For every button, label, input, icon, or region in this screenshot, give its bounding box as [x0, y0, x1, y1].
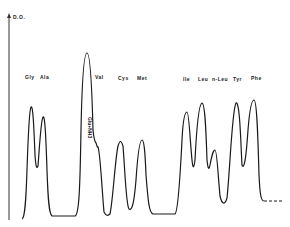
peak-label-gly: Gly: [25, 74, 35, 80]
peak-label-leu: Leu: [198, 76, 208, 82]
peak-label-ile: Ile: [183, 76, 190, 82]
peak-label-val: Val: [95, 74, 104, 80]
y-axis-arrow-icon: [7, 13, 11, 18]
y-axis-label: D.O.: [13, 14, 25, 20]
peak-label-met: Met: [137, 75, 147, 81]
peak-label-nleu: n-Leu: [212, 76, 228, 82]
peak-label-cys: Cys: [118, 75, 129, 81]
peak-label-glu-nh3: Glu+NH3: [87, 117, 93, 138]
peak-label-tyr: Tyr: [233, 76, 242, 82]
peak-label-ala: Ala: [40, 74, 49, 80]
chromatogram-plot: [0, 0, 290, 227]
peak-label-phe: Phe: [251, 75, 262, 81]
